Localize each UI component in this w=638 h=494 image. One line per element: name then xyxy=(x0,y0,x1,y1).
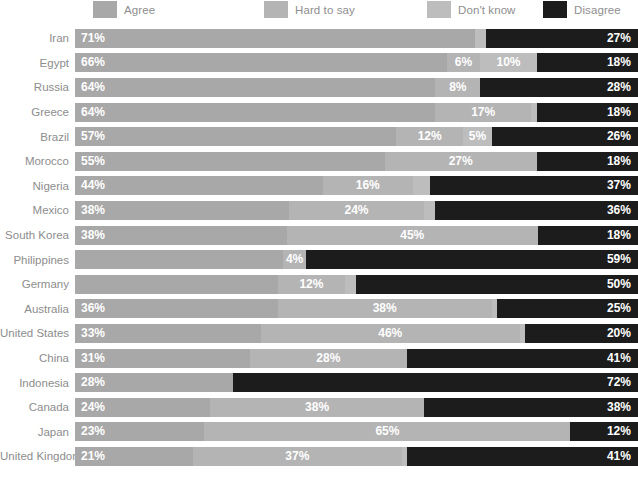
bar-segment-hard-to-say[interactable]: 24% xyxy=(289,201,424,220)
bar-segment-agree[interactable]: 55% xyxy=(75,152,385,171)
bar-segment-disagree[interactable]: 28% xyxy=(480,78,638,97)
bar-segment-dont-know[interactable] xyxy=(424,201,435,220)
segment-value-label: 5% xyxy=(463,127,491,146)
chart-row: Indonesia28%72% xyxy=(0,370,638,395)
bar-segment-disagree[interactable]: 72% xyxy=(233,373,638,392)
bar-segment-agree[interactable]: 33% xyxy=(75,324,261,343)
segment-value-label: 64% xyxy=(75,103,435,122)
bar-segment-disagree[interactable]: 59% xyxy=(306,250,638,269)
chart-row: Brazil57%12%5%26% xyxy=(0,124,638,149)
bar-segment-disagree[interactable]: 25% xyxy=(497,299,638,318)
bar-segment-agree[interactable]: 31% xyxy=(75,349,250,368)
segment-value-label: 16% xyxy=(323,176,413,195)
bar-segment-disagree[interactable]: 20% xyxy=(525,324,638,343)
segment-value-label: 23% xyxy=(75,422,204,441)
bar-segment-hard-to-say[interactable]: 65% xyxy=(204,422,570,441)
bar-segment-hard-to-say[interactable]: 38% xyxy=(278,299,492,318)
bar-segment-hard-to-say[interactable]: 12% xyxy=(278,275,346,294)
row-label-china: China xyxy=(0,352,75,364)
segment-value-label: 50% xyxy=(356,275,638,294)
row-label-nigeria: Nigeria xyxy=(0,180,75,192)
bar-segment-agree[interactable]: 57% xyxy=(75,127,396,146)
bar-segment-agree[interactable]: 21% xyxy=(75,447,193,466)
bar-segment-disagree[interactable]: 37% xyxy=(430,176,638,195)
legend-label: Agree xyxy=(124,4,155,16)
bar-segment-agree[interactable]: 36% xyxy=(75,275,278,294)
bar-segment-dont-know[interactable]: 5% xyxy=(463,127,491,146)
segment-value-label: 38% xyxy=(75,226,287,245)
bar-segment-agree[interactable]: 28% xyxy=(75,373,233,392)
segment-value-label: 27% xyxy=(385,152,537,171)
bar-segment-hard-to-say[interactable]: 27% xyxy=(385,152,537,171)
legend-item-disagree[interactable]: Disagree xyxy=(543,1,621,18)
segment-value-label: 33% xyxy=(75,324,261,343)
segment-value-label: 12% xyxy=(396,127,464,146)
chart-row: South Korea38%45%18% xyxy=(0,223,638,248)
segment-value-label: 26% xyxy=(492,127,638,146)
bar-segment-dont-know[interactable] xyxy=(345,275,356,294)
bar-segment-disagree[interactable]: 12% xyxy=(570,422,638,441)
bar-segment-hard-to-say[interactable]: 28% xyxy=(250,349,408,368)
bar-segment-hard-to-say[interactable]: 12% xyxy=(396,127,464,146)
bar-segment-hard-to-say[interactable]: 45% xyxy=(287,226,538,245)
segment-value-label: 57% xyxy=(75,127,396,146)
bar-segment-disagree[interactable]: 18% xyxy=(537,103,638,122)
stacked-bar: 31%28%41% xyxy=(75,349,638,368)
bar-segment-disagree[interactable]: 36% xyxy=(435,201,638,220)
stacked-bar-chart: AgreeHard to sayDon't knowDisagree Iran7… xyxy=(0,0,638,494)
bar-segment-hard-to-say[interactable]: 6% xyxy=(447,53,481,72)
segment-value-label: 44% xyxy=(75,176,323,195)
legend-label: Hard to say xyxy=(295,4,355,16)
stacked-bar: 44%16%37% xyxy=(75,176,638,195)
segment-value-label: 38% xyxy=(424,398,638,417)
bar-segment-disagree[interactable]: 18% xyxy=(537,152,638,171)
bar-segment-agree[interactable]: 38% xyxy=(75,226,287,245)
bar-segment-hard-to-say[interactable]: 4% xyxy=(283,250,306,269)
stacked-bar: 24%38%38% xyxy=(75,398,638,417)
bar-segment-dont-know[interactable]: 2% xyxy=(475,29,486,48)
row-label-russia: Russia xyxy=(0,81,75,93)
legend-item-hard-to-say[interactable]: Hard to say xyxy=(264,1,355,18)
segment-value-label: 17% xyxy=(435,103,531,122)
bar-segment-disagree[interactable]: 41% xyxy=(407,349,638,368)
bar-segment-hard-to-say[interactable]: 37% xyxy=(193,447,401,466)
bar-segment-disagree[interactable]: 27% xyxy=(486,29,638,48)
bar-segment-agree[interactable]: 71% xyxy=(75,29,475,48)
bar-segment-hard-to-say[interactable]: 17% xyxy=(435,103,531,122)
segment-value-label: 25% xyxy=(497,299,638,318)
bar-segment-dont-know[interactable]: 10% xyxy=(480,53,536,72)
bar-segment-disagree[interactable]: 18% xyxy=(538,226,638,245)
bar-segment-agree[interactable]: 23% xyxy=(75,422,204,441)
bar-segment-disagree[interactable]: 41% xyxy=(407,447,638,466)
bar-segment-agree[interactable]: 38% xyxy=(75,201,289,220)
chart-row: China31%28%41% xyxy=(0,346,638,371)
bar-segment-agree[interactable]: 36% xyxy=(75,299,278,318)
legend-swatch-hard-to-say-icon xyxy=(264,1,288,18)
stacked-bar: 37%4%59% xyxy=(75,250,638,269)
bar-segment-disagree[interactable]: 26% xyxy=(492,127,638,146)
bar-segment-disagree[interactable]: 50% xyxy=(356,275,638,294)
segment-value-label: 27% xyxy=(486,29,638,48)
bar-segment-agree[interactable]: 64% xyxy=(75,103,435,122)
bar-segment-hard-to-say[interactable]: 8% xyxy=(435,78,480,97)
legend-item-agree[interactable]: Agree xyxy=(93,1,155,18)
bar-segment-agree[interactable]: 66% xyxy=(75,53,447,72)
bar-segment-agree[interactable]: 64% xyxy=(75,78,435,97)
bar-segment-disagree[interactable]: 18% xyxy=(537,53,638,72)
segment-value-label: 66% xyxy=(75,53,447,72)
legend-item-dont-know[interactable]: Don't know xyxy=(427,1,516,18)
chart-row: Philippines37%4%59% xyxy=(0,247,638,272)
bar-segment-hard-to-say[interactable]: 46% xyxy=(261,324,520,343)
stacked-bar: 38%24%36% xyxy=(75,201,638,220)
row-label-indonesia: Indonesia xyxy=(0,377,75,389)
bar-segment-hard-to-say[interactable]: 38% xyxy=(210,398,424,417)
bar-segment-agree[interactable]: 44% xyxy=(75,176,323,195)
stacked-bar: 71%2%27% xyxy=(75,29,638,48)
segment-value-label: 28% xyxy=(250,349,408,368)
bar-segment-hard-to-say[interactable]: 16% xyxy=(323,176,413,195)
segment-value-label: 18% xyxy=(538,226,638,245)
bar-segment-agree[interactable]: 24% xyxy=(75,398,210,417)
bar-segment-disagree[interactable]: 38% xyxy=(424,398,638,417)
bar-segment-dont-know[interactable] xyxy=(413,176,430,195)
bar-segment-agree[interactable]: 37% xyxy=(75,250,283,269)
